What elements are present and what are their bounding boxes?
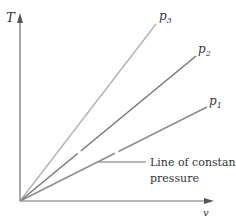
line-p1 [20, 107, 207, 201]
label-p2: p2 [198, 42, 211, 58]
ideal-gas-diagram: T v p3 p2 p1 Line of constant pressure [0, 0, 236, 219]
y-axis-label: T [6, 10, 16, 25]
annotation-line-1: Line of constant [150, 156, 236, 169]
x-axis-label: v [203, 207, 209, 218]
label-p1: p1 [209, 94, 222, 110]
y-axis-arrow-icon [17, 13, 23, 23]
label-p3: p3 [159, 9, 172, 25]
line-p3 [20, 24, 156, 201]
annotation-line-2: pressure [150, 172, 199, 185]
x-axis-arrow-icon [204, 198, 214, 204]
